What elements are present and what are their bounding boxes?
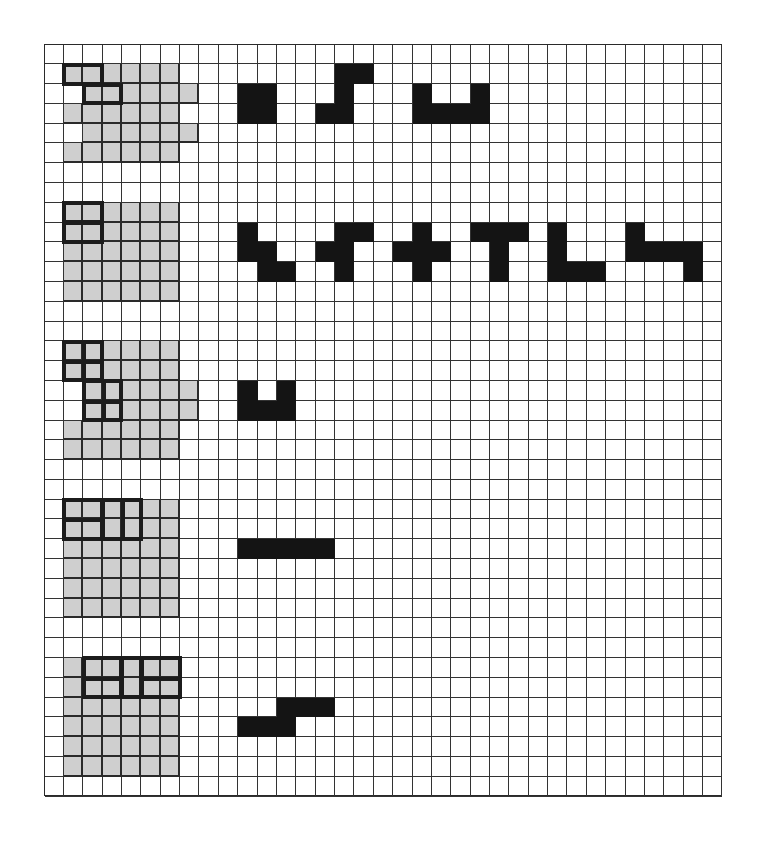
grid-cell [703, 777, 722, 797]
grid-cell [335, 599, 354, 619]
grid-cell [490, 302, 509, 322]
grid-cell [219, 500, 238, 520]
grid-cell [296, 500, 315, 520]
grid-cell [529, 421, 548, 441]
grid-cell [393, 361, 412, 381]
grid-cell [471, 519, 490, 539]
grid-cell [626, 163, 645, 183]
grid-cell [413, 302, 432, 322]
grid-cell [529, 658, 548, 678]
grid-cell [645, 500, 664, 520]
grid-cell [45, 658, 64, 678]
grid-cell [684, 618, 703, 638]
grid-cell [703, 282, 722, 302]
grid-cell [626, 519, 645, 539]
grid-cell [374, 223, 393, 243]
gray-cell [103, 104, 122, 124]
grid-cell [219, 223, 238, 243]
grid-cell [296, 737, 315, 757]
shape-cell-x-pentomino [393, 242, 412, 262]
shape-cell-n-hexomino [277, 698, 296, 718]
gray-cell [141, 401, 160, 421]
grid-cell [258, 45, 277, 65]
grid-cell [509, 777, 528, 797]
grid-cell [529, 757, 548, 777]
gray-cell [83, 599, 102, 619]
grid-cell [393, 104, 412, 124]
grid-cell [180, 223, 199, 243]
grid-cell [219, 401, 238, 421]
grid-cell [335, 717, 354, 737]
grid-cell [83, 45, 102, 65]
grid-cell [180, 559, 199, 579]
grid-cell [626, 104, 645, 124]
grid-cell [587, 480, 606, 500]
gray-cell [141, 381, 160, 401]
grid-cell [354, 460, 373, 480]
grid-cell [258, 618, 277, 638]
grid-cell [413, 361, 432, 381]
grid-cell [451, 658, 470, 678]
grid-cell [548, 658, 567, 678]
gray-cell [83, 717, 102, 737]
shape-cell-s-hexomino [664, 242, 683, 262]
grid-cell [432, 302, 451, 322]
grid-cell [509, 401, 528, 421]
grid-cell [219, 183, 238, 203]
grid-cell [277, 104, 296, 124]
grid-cell [316, 658, 335, 678]
grid-cell [606, 262, 625, 282]
grid-cell [529, 599, 548, 619]
grid-cell [374, 579, 393, 599]
grid-cell [45, 539, 64, 559]
grid-cell [296, 242, 315, 262]
grid-cell [393, 579, 412, 599]
grid-cell [684, 579, 703, 599]
grid-cell [606, 638, 625, 658]
grid-cell [432, 421, 451, 441]
grid-cell [529, 341, 548, 361]
grid-cell [451, 322, 470, 342]
grid-cell [703, 262, 722, 282]
gray-cell [161, 104, 180, 124]
grid-cell [335, 322, 354, 342]
grid-cell [548, 678, 567, 698]
gray-cell [161, 579, 180, 599]
grid-cell [335, 480, 354, 500]
grid-cell [529, 539, 548, 559]
grid-cell [393, 440, 412, 460]
grid-cell [374, 698, 393, 718]
grid-cell [432, 698, 451, 718]
grid-cell [567, 698, 586, 718]
gray-cell [103, 737, 122, 757]
grid-cell [277, 440, 296, 460]
grid-cell [664, 559, 683, 579]
grid-cell [509, 143, 528, 163]
grid-cell [180, 519, 199, 539]
grid-cell [335, 500, 354, 520]
grid-cell [587, 203, 606, 223]
grid-cell [199, 480, 218, 500]
gray-cell [161, 361, 180, 381]
grid-cell [684, 163, 703, 183]
grid-cell [548, 282, 567, 302]
grid-cell [180, 638, 199, 658]
gray-cell [122, 698, 141, 718]
grid-cell [413, 460, 432, 480]
gray-cell [103, 124, 122, 144]
shape-cell-t-pentomino [490, 223, 509, 243]
grid-cell [548, 777, 567, 797]
grid-cell [238, 777, 257, 797]
grid-cell [626, 559, 645, 579]
gray-cell [64, 599, 83, 619]
grid-cell [451, 539, 470, 559]
grid-cell [413, 341, 432, 361]
grid-cell [509, 638, 528, 658]
grid-cell [587, 341, 606, 361]
grid-cell [374, 45, 393, 65]
grid-cell [180, 242, 199, 262]
grid-cell [626, 421, 645, 441]
grid-cell [548, 579, 567, 599]
grid-cell [141, 183, 160, 203]
grid-cell [606, 242, 625, 262]
